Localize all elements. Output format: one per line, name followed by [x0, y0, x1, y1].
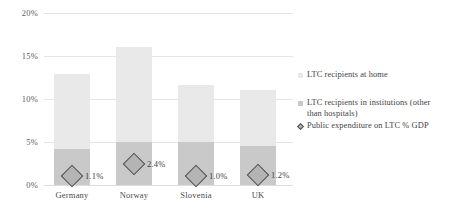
bar-segment-home	[178, 85, 214, 142]
gridline-0: 0%	[44, 185, 293, 186]
legend-item-institutions[interactable]: LTC recipients in institutions (other th…	[298, 98, 446, 119]
y-axis-tick-15: 15%	[22, 51, 38, 61]
legend-item-home[interactable]: LTC recipients at home	[298, 70, 388, 81]
x-axis-label-germany: Germany	[55, 190, 88, 200]
legend-label-home: LTC recipients at home	[307, 70, 388, 81]
expenditure-value-label: 2.4%	[147, 159, 166, 169]
y-axis-tick-5: 5%	[26, 137, 38, 147]
legend-swatch-icon-institutions	[298, 101, 303, 106]
legend-item-expenditure[interactable]: Public expenditure on LTC % GDP	[298, 121, 429, 132]
expenditure-value-label: 1.2%	[271, 170, 290, 180]
plot-area: 20% 15% 10% 5% 0% 1.1% Germany	[44, 13, 293, 185]
expenditure-value-label: 1.0%	[209, 171, 228, 181]
stacked-bar-chart: 20% 15% 10% 5% 0% 1.1% Germany	[0, 0, 449, 211]
legend-diamond-icon-expenditure	[297, 122, 304, 129]
legend-label-institutions: LTC recipients in institutions (other th…	[307, 98, 446, 119]
legend-swatch-icon-home	[298, 73, 303, 78]
bar-segment-home	[240, 90, 276, 146]
bars-layer: 1.1% Germany 2.4% Norway 1.0% Slovenia	[44, 13, 293, 185]
legend-label-expenditure: Public expenditure on LTC % GDP	[307, 121, 429, 132]
y-axis-tick-20: 20%	[22, 8, 38, 18]
x-axis-label-uk: UK	[252, 190, 265, 200]
y-axis-tick-10: 10%	[22, 94, 38, 104]
x-axis-label-norway: Norway	[120, 190, 149, 200]
y-axis-tick-0: 0%	[26, 180, 38, 190]
bar-segment-home	[116, 47, 152, 142]
bar-segment-home	[54, 74, 90, 149]
x-axis-label-slovenia: Slovenia	[180, 190, 211, 200]
expenditure-value-label: 1.1%	[85, 171, 104, 181]
